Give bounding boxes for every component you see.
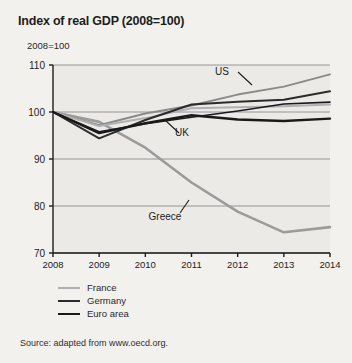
chart-figure: Index of real GDP (2008=100) 2008=100 70… (0, 0, 352, 363)
us-label: US (215, 66, 229, 77)
y-tick-label-90: 90 (34, 154, 46, 165)
x-tick-label-2009: 2009 (89, 259, 110, 270)
y-tick-label-100: 100 (28, 107, 45, 118)
legend-swatch-euro-area (58, 313, 80, 315)
plot-area: 7080901001102008200920102011201220132014… (0, 0, 352, 363)
x-tick-label-2012: 2012 (227, 259, 248, 270)
source-note: Source: adapted from www.oecd.org. (20, 338, 168, 348)
legend-item-euro-area: Euro area (58, 307, 129, 320)
x-tick-label-2010: 2010 (135, 259, 156, 270)
legend-swatch-france (58, 287, 80, 289)
x-tick-label-2014: 2014 (319, 259, 340, 270)
x-tick-label-2008: 2008 (42, 259, 63, 270)
legend-item-france: France (58, 281, 129, 294)
x-tick-label-2013: 2013 (273, 259, 294, 270)
legend-label-germany: Germany (87, 296, 126, 306)
y-tick-label-70: 70 (34, 248, 46, 259)
greece-label: Greece (149, 211, 182, 222)
line-chart-svg: 7080901001102008200920102011201220132014… (0, 0, 352, 363)
legend-label-euro-area: Euro area (87, 309, 129, 319)
legend-item-germany: Germany (58, 294, 129, 307)
x-tick-label-2011: 2011 (181, 259, 201, 270)
uk-label: UK (175, 127, 189, 138)
y-tick-label-110: 110 (29, 60, 45, 71)
y-tick-label-80: 80 (34, 201, 46, 212)
legend-label-france: France (87, 283, 117, 293)
legend-swatch-germany (58, 300, 80, 302)
legend: France Germany Euro area (58, 281, 129, 320)
